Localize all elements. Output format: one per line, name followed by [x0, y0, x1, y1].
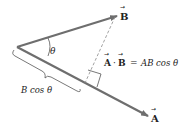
svg-text:B: B: [120, 11, 128, 22]
svg-text:A: A: [103, 58, 112, 68]
arrow-accent-icon: →: [120, 3, 125, 10]
svg-text:·: ·: [113, 58, 116, 68]
arrow-accent-icon: →: [104, 50, 109, 57]
svg-text:B: B: [118, 58, 126, 68]
vector-a-label: → A: [150, 105, 159, 124]
perpendicular-dashed-line: [85, 17, 115, 83]
arrow-accent-icon: →: [151, 105, 156, 112]
dot-product-equation: → A · → B = AB cos θ: [103, 50, 178, 68]
vector-a-arrow: [17, 47, 148, 116]
angle-theta-label: θ: [50, 46, 56, 56]
dot-product-diagram: θ → B → A → A · → B = AB cos θ B cos θ: [0, 0, 187, 133]
svg-text:=: =: [130, 58, 138, 68]
svg-text:A: A: [150, 113, 159, 124]
projection-label: B cos θ: [20, 85, 52, 95]
arrow-accent-icon: →: [118, 50, 123, 57]
vector-b-arrow: [17, 16, 117, 47]
svg-text:AB cos θ: AB cos θ: [140, 58, 178, 68]
vector-b-label: → B: [120, 3, 128, 22]
